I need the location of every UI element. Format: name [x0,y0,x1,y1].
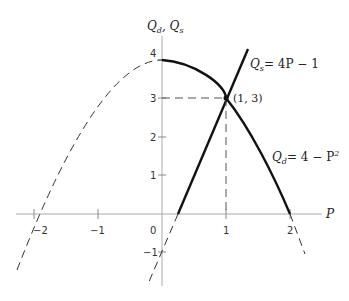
x-tick-label: −2 [33,225,48,236]
y-tick-label: 3 [150,93,156,104]
demand-label: Qd= 4 − P2 [272,149,339,166]
equilibrium-point [224,96,229,101]
y-axis-label: Qd, Qs [147,19,184,35]
equilibrium-label: (1, 3) [233,92,263,105]
x-axis-label: P [325,207,335,221]
x-tick-label: −1 [90,225,105,236]
x-tick-label: 0 [150,225,156,236]
y-tick-label: 1 [150,170,156,181]
supply-demand-chart: −2 −1 0 1 2 4 3 2 1 −1 Qd, Qs P (1, 3) Q… [0,0,349,301]
y-tick-label: −1 [143,247,158,258]
y-tick-label: 2 [150,132,156,143]
supply-label: Qs= 4P − 1 [250,57,319,73]
y-tick-label: 4 [150,48,156,59]
supply-curve-solid [178,49,248,214]
demand-curve-dashed-left [17,60,162,270]
x-tick-label: 2 [287,225,293,236]
x-tick-label: 1 [223,225,229,236]
